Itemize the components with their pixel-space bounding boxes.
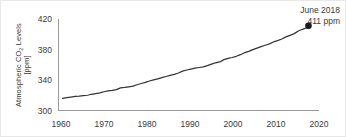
- annotation-value: 411 ppm: [308, 16, 340, 26]
- y-tick-label-300: 300: [38, 106, 52, 116]
- x-tick-label-2000: 2000: [224, 119, 243, 129]
- chart-svg: 300 340 380 420 1960 1970 1980 1990 2000…: [1, 1, 346, 137]
- x-tick-label-1970: 1970: [95, 119, 114, 129]
- y-tick-label-420: 420: [38, 14, 52, 24]
- x-tick-label-1990: 1990: [181, 119, 200, 129]
- y-tick-label-340: 340: [38, 75, 52, 85]
- y-axis-title: Atmospheric CO2 Levels [ppm]: [14, 23, 31, 107]
- co2-chart-figure: 300 340 380 420 1960 1970 1980 1990 2000…: [0, 0, 346, 137]
- x-tick-label-1960: 1960: [52, 119, 71, 129]
- y-axis-title-units: [ppm]: [22, 55, 31, 74]
- annotation-date: June 2018: [300, 5, 340, 15]
- x-tick-label-2010: 2010: [267, 119, 286, 129]
- co2-data-line: [63, 26, 309, 99]
- y-tick-label-380: 380: [38, 45, 52, 55]
- y-axis-title-tail: Levels: [14, 23, 23, 48]
- x-tick-label-2020: 2020: [310, 119, 329, 129]
- x-tick-label-1980: 1980: [138, 119, 157, 129]
